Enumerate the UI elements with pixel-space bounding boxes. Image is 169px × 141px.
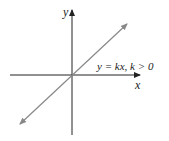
y-axis-label: y [63, 5, 68, 20]
x-axis-label: x [135, 78, 140, 93]
line-equation-label: y = kx, k > 0 [97, 60, 153, 72]
line-y-equals-kx [20, 24, 127, 124]
